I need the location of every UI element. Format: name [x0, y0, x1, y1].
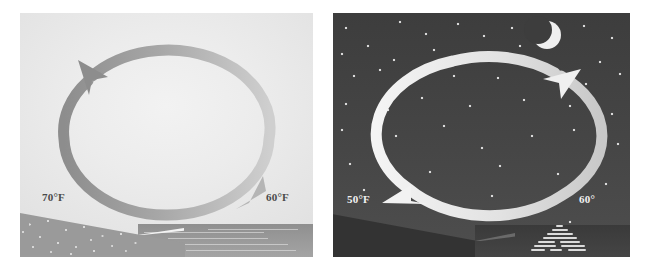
star-icon: [617, 143, 619, 145]
star-icon: [499, 165, 501, 167]
star-icon: [387, 109, 389, 111]
star-icon: [491, 195, 493, 197]
star-icon: [611, 113, 613, 115]
star-icon: [341, 129, 343, 131]
star-icon: [605, 183, 607, 185]
star-icon: [481, 147, 483, 149]
star-icon: [341, 53, 343, 55]
star-icon: [425, 33, 427, 35]
star-icon: [583, 25, 585, 27]
star-icon: [511, 27, 513, 29]
crescent-moon-icon: [533, 21, 561, 49]
star-icon: [421, 97, 423, 99]
day-panel: 70°F 60°F: [20, 13, 313, 257]
sea-stripe: [186, 250, 296, 251]
star-icon: [379, 69, 381, 71]
night-panel: 50°F 60°: [333, 13, 630, 257]
star-icon: [585, 83, 587, 85]
figure-root: 70°F 60°F: [0, 0, 649, 266]
star-icon: [477, 55, 479, 57]
star-icon: [557, 173, 559, 175]
star-icon: [367, 45, 369, 47]
star-icon: [345, 103, 347, 105]
star-icon: [453, 75, 455, 77]
star-icon: [611, 37, 613, 39]
day-sky: [20, 13, 313, 257]
star-icon: [433, 49, 435, 51]
star-icon: [599, 61, 601, 63]
star-icon: [531, 135, 533, 137]
star-icon: [353, 75, 355, 77]
star-icon: [429, 171, 431, 173]
star-icon: [519, 45, 521, 47]
day-land-temperature-label: 70°F: [42, 191, 65, 203]
night-sky: [333, 13, 630, 257]
moon-reflection: [530, 223, 590, 255]
star-icon: [345, 27, 347, 29]
day-sea-temperature-label: 60°F: [266, 191, 289, 203]
star-icon: [395, 135, 397, 137]
night-sea-temperature-label: 60°: [579, 193, 595, 205]
star-icon: [349, 163, 351, 165]
star-icon: [569, 105, 571, 107]
star-icon: [393, 59, 395, 61]
sea-stripe: [168, 238, 268, 239]
night-land-temperature-label: 50°F: [347, 193, 370, 205]
star-icon: [523, 99, 525, 101]
star-icon: [497, 77, 499, 79]
star-icon: [537, 67, 539, 69]
star-icon: [443, 125, 445, 127]
sea-stripe: [208, 229, 298, 230]
star-icon: [363, 189, 365, 191]
star-icon: [573, 129, 575, 131]
star-icon: [399, 21, 401, 23]
star-icon: [483, 35, 485, 37]
star-icon: [469, 105, 471, 107]
star-icon: [619, 73, 621, 75]
star-icon: [457, 23, 459, 25]
